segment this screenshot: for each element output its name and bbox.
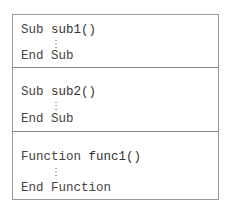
procedure-end: End Sub (21, 112, 74, 126)
ellipsis-icon: ⋮ (51, 102, 61, 112)
procedure-header: Sub sub1() (21, 23, 96, 37)
code-module-diagram: Sub sub1() ⋮ End Sub Sub sub2() ⋮ End Su… (12, 14, 219, 200)
procedure-end: End Sub (21, 49, 74, 63)
ellipsis-icon: ⋮ (51, 168, 61, 178)
procedure-name: sub1() (51, 23, 96, 37)
procedure-name: sub2() (51, 85, 96, 99)
keyword: Function (21, 150, 81, 164)
procedure-end: End Function (21, 181, 111, 195)
procedure-block-sub1: Sub sub1() ⋮ End Sub (13, 15, 218, 67)
keyword: Sub (21, 85, 44, 99)
procedure-header: Sub sub2() (21, 85, 96, 99)
procedure-block-sub2: Sub sub2() ⋮ End Sub (13, 67, 218, 131)
keyword: Sub (21, 23, 44, 37)
procedure-block-func1: Function func1() ⋮ End Function (13, 131, 218, 200)
procedure-header: Function func1() (21, 150, 141, 164)
procedure-name: func1() (89, 150, 142, 164)
